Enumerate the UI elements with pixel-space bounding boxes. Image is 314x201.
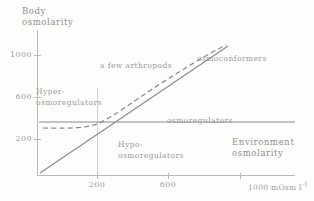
hyper-label-line1: Hyper-	[36, 87, 102, 98]
chart-figure: Body osmolarity Environment osmolarity 1…	[0, 0, 314, 201]
annotation-osmoconformers: osmoconformers	[197, 54, 267, 65]
annotation-a-few-arthropods: a few arthropods	[100, 61, 172, 72]
annotation-osmoregulators: osmoregulators	[167, 116, 233, 127]
hypo-label-line2: osmoregulators	[118, 151, 184, 162]
hypo-label-line1: Hypo-	[118, 140, 184, 151]
annotation-hypo-osmoregulators: Hypo- osmoregulators	[118, 140, 184, 161]
annotation-hyper-osmoregulators: Hyper- osmoregulators	[36, 87, 102, 108]
hyper-label-line2: osmoregulators	[36, 98, 102, 109]
